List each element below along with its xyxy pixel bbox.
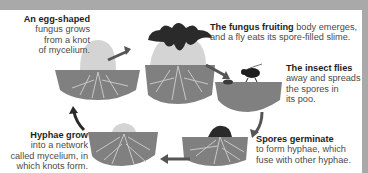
caption-germinate-stage: Spores germinate to form hyphae, which f… (256, 134, 366, 165)
caption-fly-stage: The insect flies away and spreads the sp… (286, 63, 366, 105)
caption-fruiting-stage: The fungus fruiting body emerges, and a … (210, 22, 368, 43)
fruiting-stage-illustration (145, 23, 215, 104)
caption-hyphae-stage: Hyphae grow into a network called myceli… (4, 130, 88, 172)
arrow-hyphae-to-egg (69, 106, 84, 130)
hyphae-stage-illustration (88, 123, 158, 166)
fly-stage-illustration (215, 64, 282, 112)
caption-egg-stage: An egg-shaped fungus grows from a knot o… (14, 14, 90, 56)
germinate-stage-illustration (182, 126, 248, 166)
